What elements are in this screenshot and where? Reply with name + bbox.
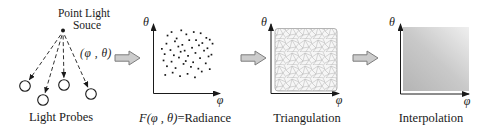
scatter-point [179, 75, 181, 77]
scatter-point [167, 35, 169, 37]
scatter-point [171, 61, 173, 63]
scatter-point [208, 56, 210, 58]
light-ray [29, 35, 60, 80]
scatter-point [182, 44, 184, 46]
scatter-point [172, 72, 174, 74]
point-light-source-dot [61, 29, 65, 33]
scatter-point [176, 38, 178, 40]
scatter-point [171, 31, 173, 33]
scatter-points [161, 30, 213, 79]
scatter-point [164, 74, 166, 76]
scatter-point [180, 30, 182, 32]
scatter-point [195, 39, 197, 41]
light-ray [63, 36, 64, 78]
scatter-point [166, 65, 168, 67]
scatter-point [173, 54, 175, 56]
triangulation-mesh [275, 29, 337, 92]
scatter-point [174, 41, 176, 43]
scatter-point [201, 71, 203, 73]
triangulation-caption: Triangulation [273, 112, 341, 124]
radiance-formula: F(φ , θ) [139, 111, 177, 125]
scatter-point [207, 47, 209, 49]
scatter-point [211, 54, 213, 56]
light-probe-circle [20, 81, 31, 92]
scatter-point [209, 68, 211, 70]
scatter-point [209, 39, 211, 41]
scatter-point [202, 42, 204, 44]
point-light-title-line1: Point Light [58, 7, 110, 19]
scatter-point [180, 51, 182, 53]
scatter-point [185, 60, 187, 62]
theta-axis-label: θ [143, 16, 149, 28]
light-probe-circle [38, 95, 49, 106]
triangulation-plot [271, 24, 339, 94]
scatter-point [166, 43, 168, 45]
scatter-point [183, 63, 185, 65]
phi-axis-label: φ [336, 94, 343, 106]
scatter-point [187, 73, 189, 75]
scatter-point [193, 31, 195, 33]
scatter-point [186, 34, 188, 36]
phi-axis-label: φ [464, 95, 471, 107]
scatter-point [163, 60, 165, 62]
scatter-point [199, 57, 201, 59]
scatter-point [164, 53, 166, 55]
scatter-point [198, 68, 200, 70]
flow-arrow-icon [241, 51, 266, 65]
scatter-point [212, 43, 214, 45]
interpolation-caption: Interpolation [399, 112, 464, 124]
scatter-point [188, 39, 190, 41]
interpolation-plot [401, 24, 470, 94]
scatter-point [195, 52, 197, 54]
scatter-point [198, 45, 200, 47]
scatter-point [192, 61, 194, 63]
figure-canvas: Point Light Souce (φ , θ) Light Probes θ… [0, 0, 493, 132]
light-ray [65, 35, 88, 87]
radiance-scatter-plot [154, 24, 221, 94]
theta-axis-label: θ [389, 16, 395, 28]
scatter-point [187, 55, 189, 57]
scatter-point [178, 57, 180, 59]
scatter-point [190, 66, 192, 68]
scatter-point [178, 46, 180, 48]
scatter-point [175, 67, 177, 69]
flow-arrow-icon [353, 51, 378, 65]
scatter-point [184, 50, 186, 52]
scatter-point [203, 50, 205, 52]
theta-axis-label: θ [261, 16, 267, 28]
scatter-point [200, 32, 202, 34]
point-light-title-line2: Souce [73, 19, 101, 31]
radiance-suffix: =Radiance [177, 111, 231, 125]
angle-label: (φ , θ) [80, 47, 112, 59]
light-source-sketch [20, 29, 97, 106]
scatter-point [170, 49, 172, 51]
light-probes-caption: Light Probes [29, 111, 93, 123]
scatter-point [206, 37, 208, 39]
light-probe-circle [86, 89, 97, 100]
phi-axis-label: φ [217, 94, 224, 106]
scatter-point [161, 48, 163, 50]
scatter-point [194, 77, 196, 79]
light-probe-circle [59, 80, 70, 91]
interpolation-gradient [403, 27, 469, 91]
scatter-point [205, 63, 207, 65]
radiance-caption: F(φ , θ)=Radiance [139, 112, 231, 124]
flow-arrow-icon [115, 51, 140, 65]
scatter-point [191, 47, 193, 49]
